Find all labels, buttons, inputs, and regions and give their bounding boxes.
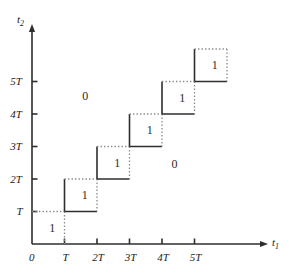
y-axis-label-subscript: 2 — [20, 19, 24, 28]
x-tick-label-4T: 4T — [157, 252, 169, 263]
x-tick-label-5T: 5T — [190, 252, 202, 263]
y-axis-arrowhead — [29, 24, 35, 32]
x-tick-label-2T: 2T — [92, 252, 104, 263]
box-value-label: 1 — [212, 59, 218, 71]
box-value-label: 1 — [114, 157, 120, 169]
y-tick-label-3T: 3T — [10, 141, 22, 152]
y-axis-label: t2 — [17, 14, 24, 28]
box-value-label: 1 — [49, 222, 55, 234]
box-value-label: 1 — [179, 92, 185, 104]
box-value-label: 1 — [82, 189, 88, 201]
y-tick-label-4T: 4T — [10, 109, 22, 120]
x-axis-arrowhead — [260, 241, 268, 247]
plot-canvas — [0, 0, 289, 280]
region-value-label: 0 — [172, 158, 178, 170]
y-tick-label-2T: 2T — [10, 174, 22, 185]
x-tick-label-3T: 3T — [125, 252, 137, 263]
y-tick-label-T: T — [17, 206, 23, 217]
x-axis-label-subscript: 1 — [275, 242, 279, 251]
y-tick-label-5T: 5T — [10, 76, 22, 87]
x-axis-origin-label: 0 — [29, 252, 35, 263]
staircase-diagram: 0T2T3T4T5TT2T3T4T5Tt1t211111100 — [0, 0, 289, 280]
box-value-label: 1 — [147, 124, 153, 136]
x-axis-label: t1 — [272, 237, 279, 251]
region-value-label: 0 — [82, 90, 88, 102]
x-tick-label-T: T — [62, 252, 68, 263]
